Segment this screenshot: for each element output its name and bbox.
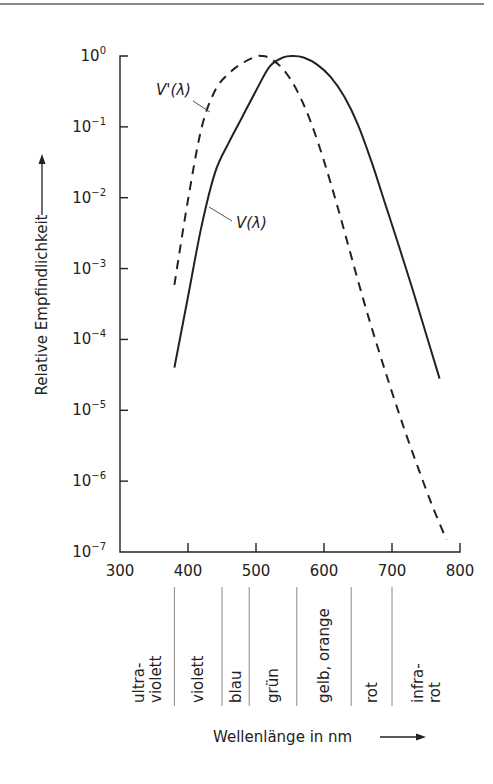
x-tick-label: 500 bbox=[242, 562, 271, 580]
y-tick-label: 10−1 bbox=[72, 116, 106, 136]
y-tick-label: 10−4 bbox=[72, 328, 106, 348]
band-label: ultra- bbox=[130, 663, 148, 703]
curves bbox=[174, 56, 446, 540]
x-tick-label: 600 bbox=[310, 562, 339, 580]
band-label: violett bbox=[147, 656, 165, 703]
y-axis-arrow-icon bbox=[39, 154, 46, 215]
v-prime-lambda-label: V'(λ) bbox=[156, 81, 191, 99]
x-axis-arrow-icon bbox=[380, 734, 426, 741]
axis-titles: Relative Empfindlichkeit Wellenlänge in … bbox=[33, 154, 426, 746]
x-tick-label: 800 bbox=[446, 562, 475, 580]
v-lambda-curve bbox=[174, 56, 439, 379]
x-axis-ticks: 300400500600700800 bbox=[106, 543, 475, 580]
band-label: blau bbox=[227, 671, 245, 703]
y-tick-label: 10−3 bbox=[72, 258, 106, 278]
y-tick-label: 10−7 bbox=[72, 541, 106, 561]
x-axis-title: Wellenlänge in nm bbox=[213, 728, 352, 746]
band-label: grün bbox=[264, 668, 282, 703]
v-prime-lambda-curve bbox=[174, 56, 446, 540]
v-leader-line bbox=[209, 207, 232, 221]
v-lambda-label: V(λ) bbox=[236, 214, 267, 232]
y-tick-label: 10−6 bbox=[72, 470, 106, 490]
y-tick-label: 100 bbox=[81, 45, 106, 65]
y-axis-title: Relative Empfindlichkeit bbox=[33, 214, 51, 395]
axes bbox=[120, 56, 460, 552]
band-label: rot bbox=[363, 682, 381, 703]
axis-frame bbox=[120, 56, 460, 552]
y-tick-label: 10−2 bbox=[72, 187, 106, 207]
band-label: violett bbox=[189, 656, 207, 703]
y-tick-label: 10−5 bbox=[72, 399, 106, 419]
spectral-bands: ultra-violettviolettblaugrüngelb, orange… bbox=[130, 587, 444, 706]
x-tick-label: 300 bbox=[106, 562, 135, 580]
band-label: infra- bbox=[409, 663, 427, 703]
band-label: gelb, orange bbox=[315, 608, 333, 703]
x-tick-label: 400 bbox=[174, 562, 203, 580]
sensitivity-chart: 10010−110−210−310−410−510−610−7 30040050… bbox=[0, 0, 493, 784]
band-label: rot bbox=[426, 682, 444, 703]
x-tick-label: 700 bbox=[378, 562, 407, 580]
